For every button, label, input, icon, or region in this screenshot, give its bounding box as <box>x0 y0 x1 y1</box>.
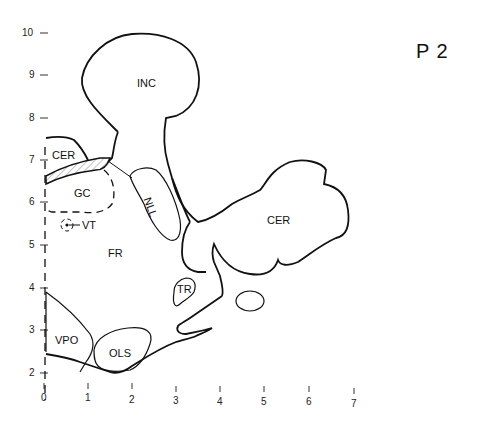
y-tick-label: 2 <box>29 368 35 378</box>
y-tick-label: 7 <box>29 155 35 165</box>
region-label-tr: TR <box>177 284 192 295</box>
x-tick-label: 3 <box>173 396 179 406</box>
y-tick-label: 6 <box>29 197 35 207</box>
region-label-inc: INC <box>137 78 156 89</box>
x-tick-label: 4 <box>217 397 223 407</box>
region-label-vt: VT <box>82 220 96 231</box>
region-label-ols: OLS <box>109 348 131 359</box>
diagram-outlines <box>0 0 485 434</box>
y-tick-label: 4 <box>29 283 35 293</box>
y-tick-label: 5 <box>29 240 35 250</box>
vt-dot <box>65 223 68 226</box>
brain-section-diagram: 10 9 8 7 6 5 4 3 2 0 1 2 3 4 5 6 7 P 2 I… <box>0 0 485 434</box>
hatched-band <box>46 158 110 184</box>
x-tick-label: 0 <box>41 393 47 403</box>
fr-upper-boundary <box>108 161 132 178</box>
y-tick-label: 3 <box>29 325 35 335</box>
small-oval-outline <box>236 291 264 311</box>
y-tick-label: 9 <box>29 70 35 80</box>
x-tick-label: 1 <box>85 393 91 403</box>
y-tick-label: 8 <box>29 113 35 123</box>
y-tick-label: 10 <box>22 28 33 38</box>
vpo-outline <box>46 292 93 372</box>
x-tick-label: 2 <box>129 395 135 405</box>
brainstem-outline <box>46 222 222 373</box>
x-tick-label: 7 <box>351 399 357 409</box>
region-label-fr: FR <box>108 248 123 259</box>
region-label-vpo: VPO <box>55 335 78 346</box>
cer-right-outline <box>172 160 349 296</box>
y-axis-ticks <box>40 33 48 373</box>
inc-outline <box>82 34 199 222</box>
region-label-cer-left: CER <box>52 150 75 161</box>
x-tick-label: 6 <box>306 397 312 407</box>
region-label-cer-right: CER <box>267 215 290 226</box>
region-label-gc: GC <box>74 188 91 199</box>
plate-label: P 2 <box>416 41 449 61</box>
x-tick-label: 5 <box>261 397 267 407</box>
